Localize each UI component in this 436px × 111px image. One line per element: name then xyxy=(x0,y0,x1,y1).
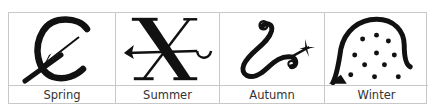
winter-symbol-icon xyxy=(325,13,428,85)
season-label: Spring xyxy=(9,85,115,104)
summer-symbol-icon xyxy=(116,13,219,85)
autumn-symbol-icon xyxy=(220,13,324,85)
season-label: Summer xyxy=(116,85,219,104)
column-winter: Winter xyxy=(324,13,428,103)
seasons-symbol-table: Spring Summer xyxy=(8,12,427,104)
season-label: Autumn xyxy=(220,85,324,104)
column-spring: Spring xyxy=(9,13,115,103)
column-summer: Summer xyxy=(115,13,219,103)
spring-symbol-icon xyxy=(9,13,115,85)
column-autumn: Autumn xyxy=(219,13,324,103)
season-label: Winter xyxy=(325,85,428,104)
